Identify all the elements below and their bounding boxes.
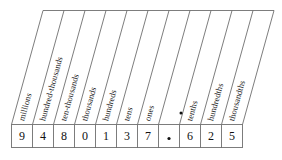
digit-decimal-point-icon — [167, 137, 170, 140]
digit-value: 0 — [82, 129, 88, 143]
header-label: ones — [142, 103, 156, 122]
digit-value: 4 — [40, 129, 46, 143]
header-label: hundredths — [205, 81, 225, 122]
digit-value: 7 — [145, 129, 151, 143]
place-value-chart: millionshundred-thousandsten-thousandsth… — [0, 0, 282, 160]
digit-value-group: 9480137625 — [19, 129, 235, 143]
header-label: thousands — [79, 85, 98, 122]
digit-value: 9 — [19, 129, 25, 143]
digit-value: 6 — [187, 129, 193, 143]
header-decimal-point-icon — [180, 112, 183, 115]
header-label: tens — [121, 105, 135, 122]
header-divider-line — [117, 11, 149, 125]
digit-value: 2 — [208, 129, 214, 143]
header-label: thousandths — [226, 79, 247, 122]
header-divider-line — [159, 11, 191, 125]
header-divider-line — [243, 11, 275, 125]
digit-value: 8 — [61, 129, 67, 143]
header-label: tenths — [184, 99, 199, 122]
header-label: hundreds — [100, 88, 118, 122]
digit-value: 3 — [124, 129, 130, 143]
digit-value: 5 — [229, 129, 235, 143]
place-value-chart-graphic: millionshundred-thousandsten-thousandsth… — [0, 0, 282, 160]
header-label: millions — [16, 91, 33, 122]
header-label-group: millionshundred-thousandsten-thousandsth… — [16, 55, 247, 122]
digit-value: 1 — [103, 129, 109, 143]
